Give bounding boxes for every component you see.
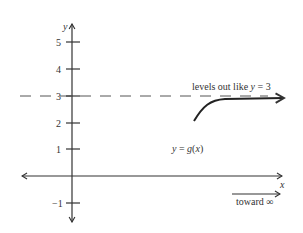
y-axis-label: y [62, 21, 68, 32]
graph-diagram: 5 4 3 2 1 −1 y x levels out like y = 3 y… [0, 0, 303, 233]
y-tick-label-5: 5 [56, 37, 61, 48]
y-tick-label-3: 3 [56, 91, 61, 102]
curve-label: y = g(x) [171, 143, 203, 155]
x-axis-label: x [279, 179, 285, 190]
curve-g [194, 98, 284, 121]
y-tick-label-4: 4 [56, 64, 61, 75]
y-ticks [66, 42, 80, 203]
asymptote-label: levels out like y = 3 [192, 81, 271, 92]
y-tick-label-1: 1 [56, 144, 61, 155]
y-tick-label-neg1: −1 [52, 198, 63, 209]
y-tick-label-2: 2 [56, 118, 61, 129]
toward-infinity-label: toward ∞ [236, 196, 273, 207]
